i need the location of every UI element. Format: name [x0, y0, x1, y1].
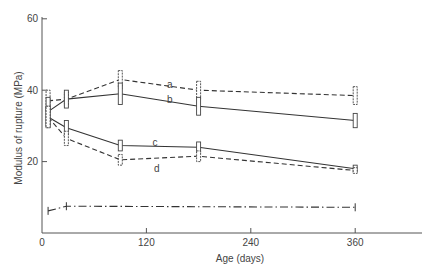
series-baseline — [48, 202, 355, 215]
y-tick-label: 60 — [27, 13, 39, 24]
series-label-d: d — [154, 163, 160, 174]
series-a: a — [46, 71, 357, 112]
error-bar — [353, 168, 357, 174]
series-b: b — [46, 83, 357, 128]
x-tick-label: 240 — [242, 237, 259, 248]
error-bar — [197, 97, 201, 115]
y-tick-label: 20 — [27, 156, 39, 167]
error-bar — [197, 81, 201, 99]
axes: 2040600120240360 — [27, 13, 422, 248]
x-tick-label: 120 — [138, 237, 155, 248]
y-axis-label: Modulus of rupture (MPa) — [13, 71, 24, 184]
series-label-a: a — [167, 79, 173, 90]
error-bar — [118, 140, 122, 151]
series-group: abcd — [46, 71, 357, 215]
x-tick-label: 0 — [39, 237, 45, 248]
error-bar — [118, 83, 122, 104]
error-bar — [64, 90, 68, 108]
error-bar — [118, 154, 122, 165]
series-label-b: b — [167, 94, 173, 105]
error-bar — [197, 151, 201, 162]
x-tick-label: 360 — [347, 237, 364, 248]
series-line — [48, 117, 355, 169]
y-tick-label: 40 — [27, 85, 39, 96]
series-label-c: c — [153, 137, 158, 148]
series-line — [48, 206, 355, 211]
x-axis-label: Age (days) — [216, 253, 264, 264]
series-line — [48, 80, 355, 101]
error-bar — [353, 87, 357, 105]
error-bar — [353, 113, 357, 127]
series-line — [48, 94, 355, 121]
error-bar — [46, 106, 50, 127]
error-bar — [64, 131, 68, 145]
chart: 2040600120240360 abcd Age (days) Modulus… — [0, 0, 433, 272]
